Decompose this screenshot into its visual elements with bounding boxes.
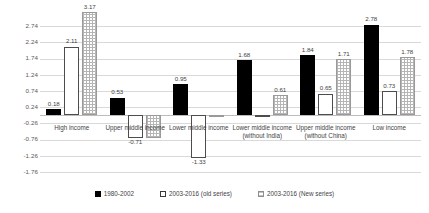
bar[interactable] <box>318 94 333 115</box>
bar-value-label: 1.71 <box>329 51 358 57</box>
bar[interactable] <box>82 12 97 115</box>
legend-swatch-old-series-icon <box>160 191 166 197</box>
bar[interactable] <box>364 25 379 115</box>
bar-slot: 0.65 <box>318 18 333 180</box>
bar-value-label: 0.61 <box>266 87 295 93</box>
bar-slot: 0.61 <box>273 18 288 180</box>
bar[interactable] <box>255 115 270 117</box>
bar-group: 1.680.61 <box>231 18 295 180</box>
y-axis-tick-label: 1.74 <box>4 55 38 61</box>
legend-label-1: 1980-2002 <box>104 190 134 197</box>
bar-group: 0.95-1.33 <box>167 18 231 180</box>
y-axis-tick-label: -0.76 <box>4 136 38 142</box>
y-axis: 2.742.241.741.240.740.24-0.26-0.76-1.26-… <box>0 18 38 180</box>
bar[interactable] <box>209 115 224 117</box>
legend-item-series-3[interactable]: 2003-2016 (New series) <box>258 190 334 197</box>
y-axis-tick-label: -1.76 <box>4 169 38 175</box>
bar[interactable] <box>237 60 252 114</box>
y-axis-tick-label: 2.24 <box>4 39 38 45</box>
bar-slot <box>209 18 224 180</box>
y-axis-tick-label: 0.74 <box>4 88 38 94</box>
bar-slot: -0.71 <box>128 18 143 180</box>
bar[interactable] <box>382 91 397 115</box>
bar-slot: 1.68 <box>237 18 252 180</box>
y-axis-tick-label: 0.24 <box>4 104 38 110</box>
bar-slot: 0.95 <box>173 18 188 180</box>
bar[interactable] <box>64 47 79 115</box>
bar[interactable] <box>336 59 351 114</box>
bar-slot: -1.33 <box>191 18 206 180</box>
bar-group: 2.780.731.78 <box>358 18 422 180</box>
bar[interactable] <box>173 84 188 115</box>
bar-groups: 0.182.113.170.53-0.710.95-1.331.680.611.… <box>40 18 421 180</box>
bar-group: 1.840.651.71 <box>294 18 358 180</box>
legend-swatch-1980-2002-icon <box>95 191 101 197</box>
bar[interactable] <box>400 57 415 115</box>
bar-slot: 1.78 <box>400 18 415 180</box>
bar-group: 0.53-0.71 <box>104 18 168 180</box>
bar[interactable] <box>128 115 143 138</box>
bar[interactable] <box>146 115 161 138</box>
y-axis-tick-label: 1.24 <box>4 72 38 78</box>
bar-group: 0.182.113.17 <box>40 18 104 180</box>
bar-value-label: 3.17 <box>75 4 104 10</box>
bar-chart: 2.742.241.741.240.740.24-0.26-0.76-1.26-… <box>0 0 429 213</box>
bar-value-label: 1.78 <box>393 49 422 55</box>
bar[interactable] <box>273 95 288 115</box>
bar[interactable] <box>46 109 61 115</box>
legend-item-series-1[interactable]: 1980-2002 <box>95 190 134 197</box>
legend-item-series-2[interactable]: 2003-2016 (old series) <box>160 190 232 197</box>
bar-slot: 0.53 <box>110 18 125 180</box>
bar[interactable] <box>191 115 206 158</box>
bar-slot: 3.17 <box>82 18 97 180</box>
legend-swatch-new-series-icon <box>258 191 264 197</box>
bar-slot <box>255 18 270 180</box>
bar-slot: 1.84 <box>300 18 315 180</box>
bar-slot: 0.73 <box>382 18 397 180</box>
chart-legend: 1980-2002 2003-2016 (old series) 2003-20… <box>0 190 429 197</box>
y-axis-tick-label: -1.26 <box>4 153 38 159</box>
legend-label-3: 2003-2016 (New series) <box>267 190 334 197</box>
bar-slot <box>146 18 161 180</box>
bar[interactable] <box>110 98 125 115</box>
y-axis-tick-label: -0.26 <box>4 120 38 126</box>
plot-area: 0.182.113.170.53-0.710.95-1.331.680.611.… <box>40 18 421 180</box>
bar-slot: 2.11 <box>64 18 79 180</box>
y-axis-tick-label: 2.74 <box>4 23 38 29</box>
bar-slot: 2.78 <box>364 18 379 180</box>
legend-label-2: 2003-2016 (old series) <box>169 190 232 197</box>
bar-slot: 1.71 <box>336 18 351 180</box>
